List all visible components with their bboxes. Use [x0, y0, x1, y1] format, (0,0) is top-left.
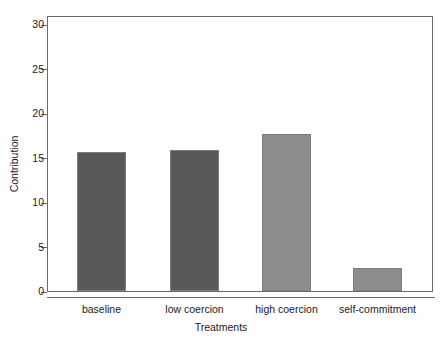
bar: [353, 268, 402, 291]
bar-chart: 051015202530 baselinelow coercionhigh co…: [0, 0, 442, 340]
y-tick-label: 5: [18, 242, 44, 252]
bar: [170, 150, 219, 291]
bar: [262, 134, 311, 292]
x-tick-label: self-commitment: [318, 303, 438, 315]
bar: [77, 152, 126, 291]
y-tick-label: 30: [18, 19, 44, 29]
y-tick-label: 0: [18, 286, 44, 296]
x-axis-title: Treatments: [0, 321, 442, 333]
y-tick-label: 20: [18, 108, 44, 118]
bars-container: [48, 17, 432, 291]
y-tick-label: 15: [18, 153, 44, 163]
x-axis-line: [47, 297, 435, 298]
y-tick-label: 25: [18, 64, 44, 74]
y-tick-label: 10: [18, 197, 44, 207]
y-axis-title: Contribution: [8, 109, 20, 219]
